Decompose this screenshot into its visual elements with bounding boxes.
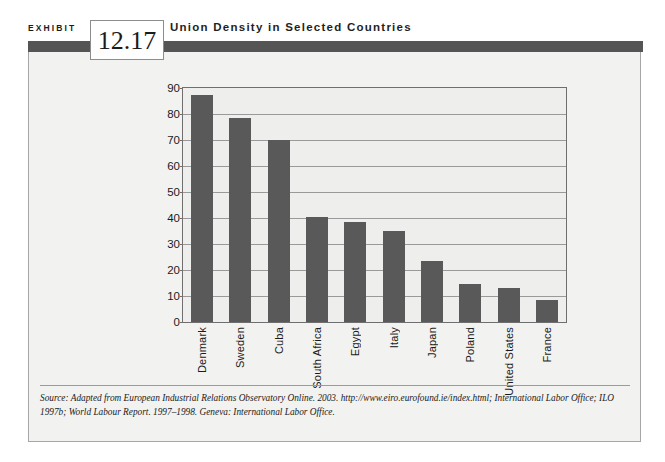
bar [498, 288, 520, 322]
x-tick-label: Denmark [196, 327, 208, 373]
x-tick-label: Japan [426, 327, 438, 358]
bar [229, 118, 251, 322]
y-tick-label: 50 [152, 186, 180, 198]
exhibit-figure: EXHIBIT 12.17 Union Density in Selected … [0, 0, 665, 462]
bar [536, 300, 558, 322]
bar [191, 95, 213, 323]
bar [344, 222, 366, 322]
bar [383, 231, 405, 322]
x-tick-label: Cuba [273, 327, 285, 354]
bar [306, 217, 328, 322]
y-tick-label: 0 [152, 316, 180, 328]
y-tick-label: 30 [152, 238, 180, 250]
x-tick-label: Egypt [349, 327, 361, 356]
bar [421, 261, 443, 322]
x-tick-label: France [541, 327, 553, 362]
y-tick-label: 70 [152, 134, 180, 146]
y-tick-label: 60 [152, 160, 180, 172]
exhibit-number-box: 12.17 [90, 20, 164, 60]
exhibit-panel: 0102030405060708090 DenmarkSwedenCubaSou… [28, 51, 641, 442]
x-tick-label: South Africa [311, 327, 323, 389]
bar [459, 284, 481, 322]
y-tick-label: 80 [152, 108, 180, 120]
x-tick-label: Italy [388, 327, 400, 348]
exhibit-label: EXHIBIT [28, 23, 76, 33]
y-tick-label: 40 [152, 212, 180, 224]
exhibit-number: 12.17 [91, 21, 163, 59]
y-tick-label: 90 [152, 82, 180, 94]
x-tick-label: Poland [464, 327, 476, 362]
y-axis: 0102030405060708090 [149, 87, 180, 323]
y-tick-label: 20 [152, 264, 180, 276]
x-tick-label: Sweden [234, 327, 246, 368]
source-divider [40, 385, 630, 386]
exhibit-title: Union Density in Selected Countries [170, 21, 412, 33]
bar-chart: 0102030405060708090 DenmarkSwedenCubaSou… [149, 87, 569, 337]
y-tick-label: 10 [152, 290, 180, 302]
bar [268, 140, 290, 322]
bars-layer [183, 88, 566, 322]
source-note: Source: Adapted from European Industrial… [40, 392, 632, 419]
